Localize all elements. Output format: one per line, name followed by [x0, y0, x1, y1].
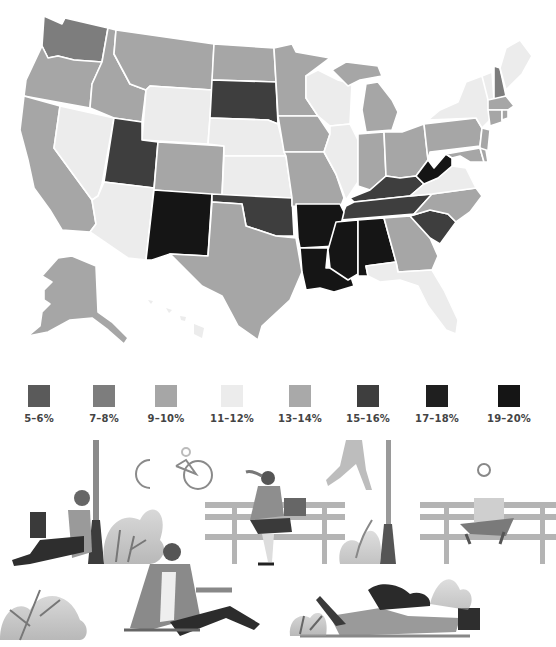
- legend-item: 17–18%: [402, 385, 472, 424]
- state-ct: [488, 110, 502, 126]
- state-wa: [42, 16, 108, 62]
- legend-label: 17–18%: [402, 413, 472, 424]
- state-fl: [366, 262, 458, 334]
- legend-swatch: [357, 385, 379, 407]
- person-running-icon: [326, 440, 372, 490]
- legend-item: 11–12%: [197, 385, 267, 424]
- bicycle-icon: [136, 448, 212, 489]
- legend-swatch: [289, 385, 311, 407]
- legend-item: 15–16%: [333, 385, 403, 424]
- state-nd: [212, 44, 276, 82]
- state-ak: [28, 256, 128, 344]
- legend-item: 13–14%: [265, 385, 335, 424]
- legend-label: 11–12%: [197, 413, 267, 424]
- legend-label: 13–14%: [265, 413, 335, 424]
- person-laptop-icon: [12, 490, 92, 566]
- map-svg: [0, 0, 556, 360]
- legend-swatch: [221, 385, 243, 407]
- state-wy: [142, 86, 212, 144]
- legend-swatch: [28, 385, 50, 407]
- legend-label: 7–8%: [69, 413, 139, 424]
- park-illustration: [0, 440, 556, 647]
- state-ia: [278, 116, 330, 152]
- illustration-svg: [0, 440, 556, 647]
- state-me: [500, 40, 532, 90]
- state-ks: [222, 156, 292, 198]
- plant-icon: [0, 590, 87, 640]
- state-mt: [114, 30, 214, 90]
- lamp-post-icon: [380, 440, 396, 564]
- legend-swatch: [155, 385, 177, 407]
- state-co: [154, 142, 224, 196]
- legend-label: 5–6%: [4, 413, 74, 424]
- legend-label: 15–16%: [333, 413, 403, 424]
- legend-label: 9–10%: [131, 413, 201, 424]
- legend-swatch: [426, 385, 448, 407]
- plant-icon: [103, 510, 164, 564]
- state-az: [90, 182, 154, 260]
- legend-label: 19–20%: [474, 413, 544, 424]
- state-nm: [146, 190, 212, 260]
- legend-item: 19–20%: [474, 385, 544, 424]
- us-choropleth-map: [0, 0, 556, 360]
- state-sd: [210, 80, 278, 124]
- state-hi: [148, 300, 204, 338]
- legend-item: 5–6%: [4, 385, 74, 424]
- plant-icon: [339, 520, 381, 564]
- state-ri: [502, 110, 508, 120]
- legend-item: 7–8%: [69, 385, 139, 424]
- legend-swatch: [498, 385, 520, 407]
- legend-swatch: [93, 385, 115, 407]
- legend-item: 9–10%: [131, 385, 201, 424]
- map-legend: 5–6% 7–8% 9–10% 11–12% 13–14% 15–16% 17–…: [0, 385, 556, 435]
- state-mi: [362, 82, 398, 132]
